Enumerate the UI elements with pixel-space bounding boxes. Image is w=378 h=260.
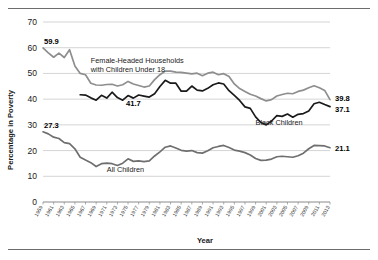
chart-figure: 010203040506070 195919611963196519671969… xyxy=(0,0,378,260)
y-tick-label: 0 xyxy=(32,197,37,207)
x-tick-label: 1969 xyxy=(86,204,97,217)
x-tick-label: 2009 xyxy=(299,204,310,217)
y-tick-label: 50 xyxy=(28,68,38,78)
x-tick-label: 1983 xyxy=(160,204,171,217)
x-tick-label: 1979 xyxy=(139,204,150,217)
x-tick-label: 1973 xyxy=(107,204,118,217)
x-tick-label: 1991 xyxy=(203,204,214,217)
y-tick-label: 30 xyxy=(28,120,38,130)
x-tick-label: 1971 xyxy=(97,204,108,217)
x-tick-label: 2001 xyxy=(256,204,267,217)
x-tick-label: 2011 xyxy=(309,204,320,217)
x-axis-title: Year xyxy=(197,236,213,245)
data-value-label: 59.9 xyxy=(44,37,59,46)
series-annotation: Black Children xyxy=(256,118,303,127)
series-line xyxy=(43,48,330,101)
x-tick-label: 1999 xyxy=(245,204,256,217)
y-tick-label: 20 xyxy=(28,146,38,156)
x-tick-label: 1977 xyxy=(129,204,140,217)
x-tick-label: 1987 xyxy=(182,204,193,217)
data-value-labels-group: 59.927.341.739.837.121.1 xyxy=(44,37,351,153)
x-tick-label: 1985 xyxy=(171,204,182,217)
data-value-label: 41.7 xyxy=(126,99,141,108)
series-line xyxy=(43,132,330,167)
x-tick-label: 2005 xyxy=(277,204,288,217)
x-tick-label: 1961 xyxy=(44,204,55,217)
series-lines-group xyxy=(43,48,330,167)
y-tick-label: 60 xyxy=(28,43,38,53)
series-annotation: with Children Under 18 xyxy=(90,65,165,74)
line-chart-svg: 010203040506070 195919611963196519671969… xyxy=(0,0,378,260)
gridlines-group xyxy=(43,22,330,202)
data-value-label: 27.3 xyxy=(44,121,59,130)
x-tick-label: 2003 xyxy=(267,204,278,217)
series-annotation: All Children xyxy=(107,165,144,174)
y-tick-label: 70 xyxy=(28,17,38,27)
x-tick-label: 1995 xyxy=(224,204,235,217)
x-tick-label: 1965 xyxy=(65,204,76,217)
x-tick-label: 2007 xyxy=(288,204,299,217)
x-axis-tick-labels: 1959196119631965196719691971197319751977… xyxy=(33,202,331,217)
data-value-label: 37.1 xyxy=(335,105,351,114)
x-tick-label: 1993 xyxy=(214,204,225,217)
y-axis-title: Percentage in Poverty xyxy=(6,89,15,170)
series-annotation: Female-Headed Households xyxy=(91,56,184,65)
y-tick-label: 40 xyxy=(28,94,38,104)
x-tick-label: 1981 xyxy=(150,204,161,217)
x-tick-label: 1997 xyxy=(235,204,246,217)
y-tick-label: 10 xyxy=(28,171,38,181)
x-tick-label: 1975 xyxy=(118,204,129,217)
y-axis-tick-labels: 010203040506070 xyxy=(28,17,38,207)
x-tick-label: 2013 xyxy=(320,204,331,217)
x-tick-label: 1989 xyxy=(192,204,203,217)
data-value-label: 39.8 xyxy=(335,94,350,103)
x-tick-label: 1967 xyxy=(75,204,86,217)
x-tick-label: 1963 xyxy=(54,204,65,217)
data-value-label: 21.1 xyxy=(335,144,351,153)
